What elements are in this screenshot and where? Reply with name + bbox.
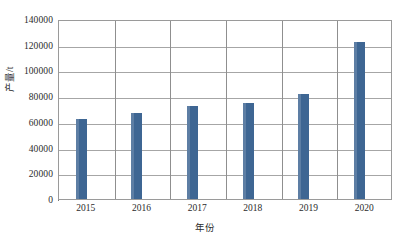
y-axis-tick-label: 0 — [48, 195, 53, 205]
x-axis-tick-label: 2018 — [243, 203, 262, 213]
y-axis-tick-label: 100000 — [24, 66, 53, 76]
gridline-horizontal — [59, 150, 391, 151]
y-axis-title: 产量/t — [2, 67, 16, 92]
x-axis-tick-label: 2016 — [132, 203, 151, 213]
bar-2017 — [187, 106, 198, 199]
gridline-horizontal — [59, 98, 391, 99]
y-axis-tick-label: 40000 — [29, 144, 53, 154]
plot-area — [58, 20, 392, 200]
y-axis-tick-label: 80000 — [29, 92, 53, 102]
bar-2015 — [76, 119, 87, 199]
gridline-horizontal — [59, 47, 391, 48]
bar-2016 — [131, 113, 142, 199]
bar-2018 — [243, 103, 254, 199]
gridline-horizontal — [59, 72, 391, 73]
x-axis-tick-label: 2017 — [188, 203, 207, 213]
gridline-category-separator — [115, 21, 116, 199]
gridline-category-separator — [337, 21, 338, 199]
x-axis-tick-label: 2019 — [299, 203, 318, 213]
gridline-category-separator — [282, 21, 283, 199]
y-axis-tick-label: 20000 — [29, 169, 53, 179]
bar-chart-figure: 020000400006000080000100000120000140000 … — [0, 0, 409, 242]
y-axis-tick-labels: 020000400006000080000100000120000140000 — [0, 20, 53, 200]
y-axis-tick-label: 120000 — [24, 41, 53, 51]
bar-2020 — [354, 42, 365, 199]
y-axis-tick-label: 140000 — [24, 15, 53, 25]
x-axis-tick-labels: 201520162017201820192020 — [58, 203, 392, 219]
y-axis-tick-label: 60000 — [29, 118, 53, 128]
gridline-category-separator — [226, 21, 227, 199]
gridline-horizontal — [59, 124, 391, 125]
gridline-category-separator — [170, 21, 171, 199]
bar-2019 — [298, 94, 309, 199]
x-axis-tick-label: 2020 — [355, 203, 374, 213]
x-axis-tick-label: 2015 — [76, 203, 95, 213]
gridline-horizontal — [59, 175, 391, 176]
x-axis-title: 年份 — [0, 220, 409, 234]
